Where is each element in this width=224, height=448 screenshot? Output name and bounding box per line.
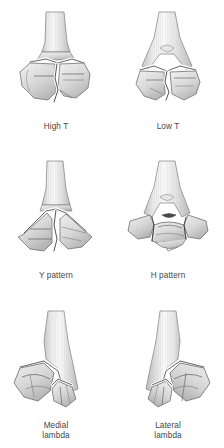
- y-pattern-illustration: [0, 157, 112, 269]
- medial-lambda-illustration: [0, 307, 112, 419]
- figure-panel-h-pattern: H pattern: [112, 149, 224, 298]
- figure-panel-low-t: Low T: [112, 0, 224, 149]
- figure-panel-medial-lambda: Medial lambda: [0, 299, 112, 448]
- figure-panel-high-t: High T: [0, 0, 112, 149]
- high-t-illustration: [0, 8, 112, 120]
- panel-caption: Lateral lambda: [154, 421, 181, 441]
- panel-caption: Medial lambda: [42, 421, 69, 441]
- panel-caption: High T: [44, 122, 69, 132]
- figure-panel-y-pattern: Y pattern: [0, 149, 112, 298]
- panel-caption: Low T: [157, 122, 180, 132]
- panel-caption: Y pattern: [39, 271, 73, 281]
- h-pattern-illustration: [112, 157, 224, 269]
- fracture-pattern-grid: High T: [0, 0, 224, 448]
- lateral-lambda-illustration: [112, 307, 224, 419]
- figure-panel-lateral-lambda: Lateral lambda: [112, 299, 224, 448]
- panel-caption: H pattern: [151, 271, 186, 281]
- low-t-illustration: [112, 8, 224, 120]
